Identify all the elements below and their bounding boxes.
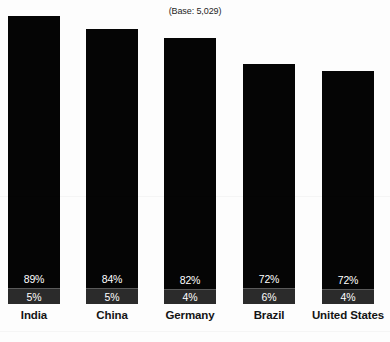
bar-segment-top: 84%: [86, 29, 138, 288]
bar-stack: 84% 5%: [86, 29, 138, 304]
bar-segment-bottom: 5%: [86, 288, 138, 304]
bar-segment-bottom: 4%: [322, 289, 374, 304]
bar-stack: 72% 4%: [322, 71, 374, 304]
bar-stack: 89% 5%: [8, 16, 60, 304]
bar-stack: 82% 4%: [164, 38, 216, 304]
bar-value-top: 84%: [86, 273, 138, 285]
bar-segment-top: 72%: [243, 64, 295, 288]
bar-value-bottom: 6%: [243, 290, 295, 302]
bar-value-bottom: 4%: [164, 291, 216, 303]
category-label-germany: Germany: [152, 309, 228, 322]
bar-segment-bottom: 5%: [8, 288, 60, 304]
bar-segment-bottom: 6%: [243, 288, 295, 304]
category-label-india: India: [0, 309, 72, 322]
category-label-brazil: Brazil: [231, 309, 307, 322]
bar-segment-top: 72%: [322, 71, 374, 289]
bar-segment-bottom: 4%: [164, 289, 216, 304]
bar-value-top: 82%: [164, 274, 216, 286]
category-label-china: China: [74, 309, 150, 322]
bar-segment-top: 89%: [8, 16, 60, 288]
bar-value-bottom: 4%: [322, 291, 374, 303]
bar-group-germany: 82% 4% Germany: [164, 38, 216, 304]
bar-value-top: 72%: [322, 274, 374, 286]
bar-value-top: 72%: [243, 273, 295, 285]
plot-area: 89% 5% India 84% 5% China: [0, 0, 390, 342]
bar-stack: 72% 6%: [243, 64, 295, 304]
bar-value-bottom: 5%: [8, 290, 60, 302]
bar-value-bottom: 5%: [86, 290, 138, 302]
bar-group-china: 84% 5% China: [86, 29, 138, 304]
chart-container: (Base: 5,029) 89% 5% India 84% 5%: [0, 0, 390, 342]
category-label-united-states: United States: [310, 309, 386, 322]
bar-segment-top: 82%: [164, 38, 216, 289]
bar-value-top: 89%: [8, 273, 60, 285]
bar-group-brazil: 72% 6% Brazil: [243, 64, 295, 304]
bar-group-united-states: 72% 4% United States: [322, 71, 374, 304]
bar-group-india: 89% 5% India: [8, 16, 60, 304]
